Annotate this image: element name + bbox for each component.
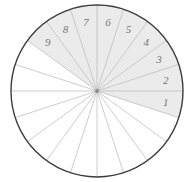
sector-label: 6 xyxy=(105,16,111,28)
radial-spoke xyxy=(15,91,97,118)
sector-label: 4 xyxy=(144,36,150,48)
center-point-dot xyxy=(95,89,99,93)
radial-spoke xyxy=(46,91,97,161)
sector-circle-diagram: 123456789 xyxy=(0,0,195,182)
radial-spoke xyxy=(70,91,97,173)
sector-label: 9 xyxy=(45,36,51,48)
sector-label: 5 xyxy=(126,23,132,35)
sector-label: 8 xyxy=(63,23,69,35)
sector-label: 7 xyxy=(83,16,89,28)
sector-label: 3 xyxy=(155,53,162,65)
radial-spoke xyxy=(27,91,97,142)
circle-figure: 123456789 xyxy=(0,0,195,182)
sector-label: 1 xyxy=(163,96,169,108)
sector-label: 2 xyxy=(163,74,169,86)
radial-spoke xyxy=(97,91,124,173)
